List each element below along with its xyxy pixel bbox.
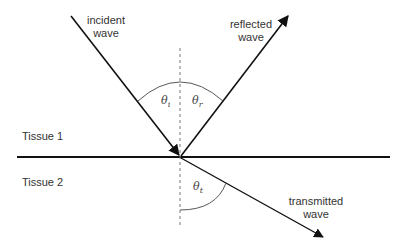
reflected-wave-arrow bbox=[181, 16, 288, 156]
transmitted-wave-label-line2: wave bbox=[302, 208, 329, 220]
transmitted-angle-arc bbox=[180, 183, 226, 210]
incident-wave-label-line1: incident bbox=[87, 14, 125, 26]
wave-reflection-diagram: θi θr θt incident wave reflected wave tr… bbox=[0, 0, 403, 250]
transmitted-wave-label-line1: transmitted bbox=[289, 195, 343, 207]
theta-i-label: θi bbox=[161, 94, 171, 109]
theta-r-label: θr bbox=[192, 94, 204, 109]
tissue-1-label: Tissue 1 bbox=[22, 130, 63, 142]
tissue-2-label: Tissue 2 bbox=[22, 176, 63, 188]
reflected-wave-label-line1: reflected bbox=[230, 18, 272, 30]
reflected-wave-label-line2: wave bbox=[237, 31, 264, 43]
incident-wave-label-line2: wave bbox=[92, 27, 119, 39]
theta-t-label: θt bbox=[193, 180, 204, 195]
